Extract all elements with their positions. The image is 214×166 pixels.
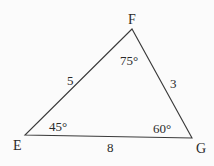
side-label-ef: 5 — [67, 73, 74, 88]
vertex-label-f: F — [128, 12, 136, 27]
angle-label-e: 45° — [49, 119, 67, 134]
side-label-fg: 3 — [170, 76, 177, 91]
triangle-diagram: F E G 75° 45° 60° 5 3 8 — [0, 0, 214, 166]
angle-label-f: 75° — [120, 53, 138, 68]
side-label-eg: 8 — [107, 140, 114, 155]
angle-label-g: 60° — [153, 121, 171, 136]
vertex-label-g: G — [196, 141, 206, 156]
vertex-label-e: E — [13, 138, 22, 153]
